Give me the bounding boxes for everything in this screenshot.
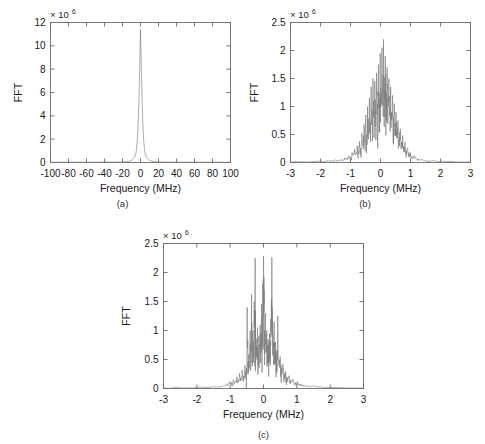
panel-c-ytick-label: 2.5 <box>145 238 159 249</box>
panel-c-exponent-power: 6 <box>185 229 189 236</box>
panel-b-xtick-label: 1 <box>408 168 414 179</box>
panel-a-exponent-power: 6 <box>72 8 76 15</box>
panel-c-xtick-label: 2 <box>327 394 333 405</box>
panel-c-xtick-labels: -3-2-10123 <box>159 394 367 405</box>
panel-b-exponent: × 10 6 <box>290 8 316 21</box>
panel-b-x-axis-title: Frequency (MHz) <box>340 182 421 194</box>
panel-a-xtick-label: -20 <box>115 168 130 179</box>
panel-b-ytick-labels: 00.511.522.5 <box>272 17 286 168</box>
panel-b-xtick-labels: -3-2-10123 <box>286 168 474 179</box>
panel-c-xtick-label: 0 <box>261 394 267 405</box>
panel-a-y-axis-title: FFT <box>12 82 24 102</box>
panel-b-xtick-label: -3 <box>286 168 295 179</box>
panel-a-xtick-label: 0 <box>138 168 144 179</box>
panel-b-xtick-label: 3 <box>468 168 474 179</box>
panel-b-ytick-label: 1 <box>280 101 286 112</box>
panel-a-xtick-label: -100 <box>40 168 60 179</box>
panel-a-x-axis-title: Frequency (MHz) <box>100 182 181 194</box>
panel-a-xtick-label: 100 <box>222 168 239 179</box>
panel-a-xtick-label: -40 <box>97 168 112 179</box>
panel-c-exponent: × 10 6 <box>163 229 189 242</box>
panel-c-ytick-label: 2 <box>153 267 159 278</box>
panel-b-caption: (b) <box>359 198 371 209</box>
panel-b-ytick-label: 0 <box>280 157 286 168</box>
panel-c-ytick-label: 1.5 <box>145 296 159 307</box>
panel-b-exponent-mantissa: × 10 <box>290 9 309 20</box>
panel-a-ytick-label: 8 <box>40 64 46 75</box>
panel-c-exponent-mantissa: × 10 <box>163 230 182 241</box>
panel-b-ytick-label: 1.5 <box>272 73 286 84</box>
panel-c-xtick-label: -1 <box>226 394 235 405</box>
panel-a-xtick-label: -60 <box>79 168 94 179</box>
panel-a-ytick-label: 4 <box>40 110 46 121</box>
panel-c-ytick-label: 1 <box>153 325 159 336</box>
panel-c-xtick-label: 1 <box>294 394 300 405</box>
panel-b-xtick-label: -1 <box>346 168 355 179</box>
panel-a-ytick-label: 10 <box>34 40 46 51</box>
panel-c-y-axis-title: FFT <box>120 306 132 326</box>
panel-a-xtick-label: 20 <box>153 168 165 179</box>
panel-b-ytick-label: 2.5 <box>272 17 286 28</box>
panel-c-xtick-label: 3 <box>361 394 367 405</box>
panel-a-xtick-label: 80 <box>207 168 219 179</box>
panel-c-x-axis-title: Frequency (MHz) <box>223 408 304 420</box>
panel-b-exponent-power: 6 <box>312 8 316 15</box>
panel-a-svg: × 10 6 -100-80-60-40-20020406080100 0246… <box>0 0 245 212</box>
panel-c: × 10 6 -3-2-10123 00.511.522.5 Frequency… <box>100 222 390 444</box>
panel-c-caption: (c) <box>258 429 269 440</box>
panel-a-exponent-mantissa: × 10 <box>50 9 69 20</box>
panel-a-xtick-label: 40 <box>171 168 183 179</box>
panel-c-ytick-label: 0 <box>153 383 159 394</box>
panel-a-caption: (a) <box>117 198 129 209</box>
panel-b-xtick-label: 2 <box>438 168 444 179</box>
panel-a-ytick-label: 2 <box>40 134 46 145</box>
panel-a-ytick-labels: 024681012 <box>34 17 46 168</box>
panel-a-xtick-label: -80 <box>61 168 76 179</box>
panel-b-xtick-label: 0 <box>378 168 384 179</box>
panel-b-ytick-label: 2 <box>280 45 286 56</box>
panel-c-svg: × 10 6 -3-2-10123 00.511.522.5 Frequency… <box>100 222 390 444</box>
panel-b-svg: × 10 6 -3-2-10123 00.511.522.5 Frequency… <box>245 0 485 212</box>
panel-b-y-axis-title: FFT <box>248 82 260 102</box>
panel-a: × 10 6 -100-80-60-40-20020406080100 0246… <box>0 0 245 212</box>
panel-b-ytick-label: 0.5 <box>272 129 286 140</box>
panel-a-ytick-label: 0 <box>40 157 46 168</box>
fft-spectra-figure: × 10 6 -100-80-60-40-20020406080100 0246… <box>0 0 485 444</box>
panel-a-exponent: × 10 6 <box>50 8 76 21</box>
panel-b-xtick-label: -2 <box>316 168 325 179</box>
panel-c-xtick-label: -2 <box>192 394 201 405</box>
panel-b: × 10 6 -3-2-10123 00.511.522.5 Frequency… <box>245 0 485 212</box>
panel-c-xtick-label: -3 <box>159 394 168 405</box>
panel-a-ytick-label: 6 <box>40 87 46 98</box>
panel-c-ytick-label: 0.5 <box>145 354 159 365</box>
panel-c-ytick-labels: 00.511.522.5 <box>145 238 159 394</box>
panel-a-xtick-label: 60 <box>189 168 201 179</box>
panel-a-ytick-label: 12 <box>34 17 46 28</box>
panel-a-xtick-labels: -100-80-60-40-20020406080100 <box>40 168 239 179</box>
